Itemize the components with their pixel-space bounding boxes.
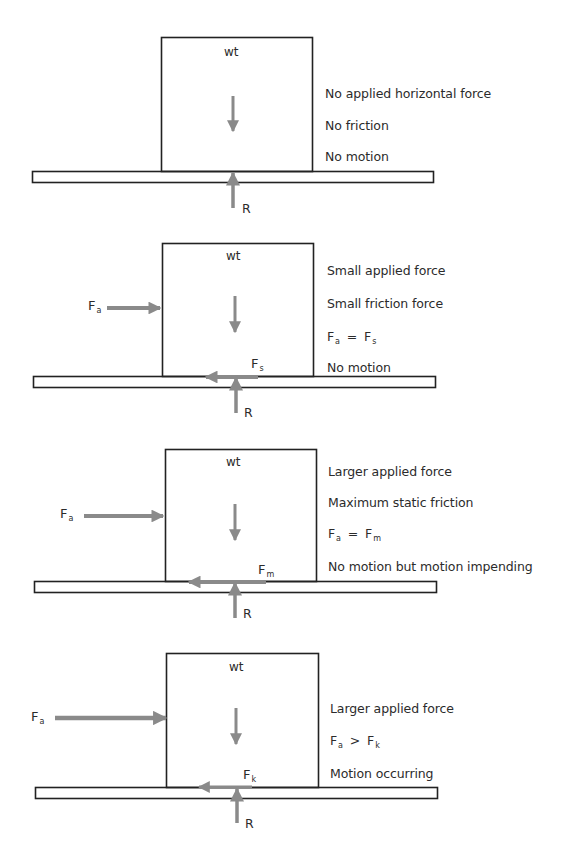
applied-force-label: Fa (88, 299, 101, 318)
symbol: F (258, 562, 265, 577)
eq-lhs: F (328, 526, 335, 541)
eq-rhs-sub: s (372, 337, 376, 346)
eq-rhs: F (364, 329, 371, 344)
note-line: Small applied force (327, 264, 445, 278)
eq-lhs-sub: a (338, 741, 343, 750)
subscript: a (96, 306, 101, 315)
symbol: F (88, 298, 95, 313)
note-line: No applied horizontal force (325, 87, 491, 101)
reaction-label: R (243, 607, 252, 621)
note-line: No motion but motion impending (328, 560, 533, 574)
subscript: k (251, 775, 256, 784)
note-line: No motion (325, 150, 389, 164)
friction-diagram: wt R No applied horizontal force No fric… (0, 0, 587, 867)
note-line: Small friction force (327, 297, 443, 311)
eq-op: = (347, 329, 357, 344)
friction-force-label: Fk (243, 768, 256, 787)
weight-label: wt (229, 660, 244, 674)
equation: Fa = Fs (327, 330, 376, 349)
applied-force-label: Fa (60, 507, 73, 526)
note-line: Larger applied force (328, 465, 452, 479)
eq-rhs: F (365, 526, 372, 541)
note-line: Motion occurring (330, 767, 433, 781)
weight-label: wt (226, 249, 241, 263)
note-line: No motion (327, 361, 391, 375)
symbol: F (251, 356, 258, 371)
diagram-graphics (0, 0, 587, 867)
weight-label: wt (224, 45, 239, 59)
note-line: Larger applied force (330, 702, 454, 716)
note-line: Maximum static friction (328, 496, 473, 510)
subscript: a (68, 514, 73, 523)
friction-force-label: Fm (258, 563, 274, 582)
eq-op: > (350, 733, 360, 748)
eq-rhs-sub: k (375, 741, 380, 750)
subscript: m (266, 570, 274, 579)
block (163, 244, 314, 377)
reaction-label: R (244, 406, 253, 420)
symbol: F (60, 506, 67, 521)
weight-label: wt (226, 455, 241, 469)
eq-op: = (348, 526, 358, 541)
friction-force-label: Fs (251, 357, 264, 376)
eq-rhs-sub: m (373, 534, 381, 543)
eq-lhs-sub: a (335, 337, 340, 346)
block (166, 450, 317, 582)
reaction-label: R (242, 202, 251, 216)
eq-lhs: F (330, 733, 337, 748)
symbol: F (31, 709, 38, 724)
equation: Fa > Fk (330, 734, 380, 753)
reaction-label: R (245, 817, 254, 831)
eq-lhs: F (327, 329, 334, 344)
subscript: a (39, 717, 44, 726)
applied-force-label: Fa (31, 710, 44, 729)
note-line: No friction (325, 119, 389, 133)
subscript: s (259, 364, 263, 373)
equation: Fa = Fm (328, 527, 381, 546)
eq-lhs-sub: a (336, 534, 341, 543)
eq-rhs: F (367, 733, 374, 748)
symbol: F (243, 767, 250, 782)
